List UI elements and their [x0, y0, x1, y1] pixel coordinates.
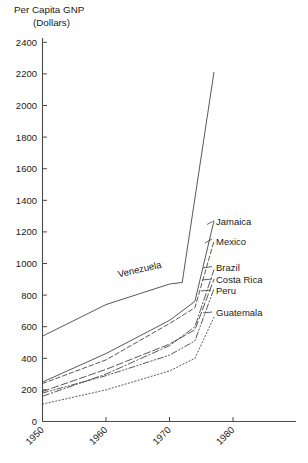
series-label-peru: Peru	[216, 285, 236, 296]
series-label-mexico: Mexico	[216, 236, 246, 247]
x-axis-tick-label: 1980	[214, 424, 237, 447]
y-axis-tick-label: 600	[21, 321, 37, 332]
y-axis-tick-label: 400	[21, 353, 37, 364]
chart-container: Per Capita GNP (Dollars) 020040060080010…	[0, 0, 308, 463]
series-line-venezuela	[43, 72, 214, 336]
y-axis-tick-label: 1800	[16, 132, 37, 143]
line-chart: Per Capita GNP (Dollars) 020040060080010…	[0, 0, 308, 463]
y-axis-tick-label: 800	[21, 290, 37, 301]
series-leader-line-brazil	[203, 267, 212, 269]
series-label-costa-rica: Costa Rica	[216, 274, 263, 285]
y-axis-tick-label: 1200	[16, 226, 37, 237]
y-axis-tick-label: 1400	[16, 195, 37, 206]
x-axis-tick-label: 1960	[87, 424, 110, 447]
y-axis-tick-label: 1600	[16, 163, 37, 174]
y-axis-tick-label: 2000	[16, 100, 37, 111]
x-axis-tick-label: 1950	[23, 424, 46, 447]
series-labels: JamaicaMexicoBrazilCosta RicaPeruGuatema…	[201, 216, 263, 318]
x-axis-tick-label: 1970	[150, 424, 173, 447]
y-axis-tick-label: 2400	[16, 37, 37, 48]
series-label-guatemala: Guatemala	[216, 307, 263, 318]
chart-annotations: Venezuela	[117, 259, 163, 280]
series-line-costa-rica	[43, 279, 214, 391]
series-label-jamaica: Jamaica	[216, 216, 252, 227]
series-line-brazil	[43, 270, 214, 396]
series-label-brazil: Brazil	[216, 262, 240, 273]
chart-title: Per Capita GNP	[14, 4, 85, 15]
chart-subtitle: (Dollars)	[33, 17, 70, 28]
series-lines	[43, 72, 214, 404]
y-axis-tick-label: 1000	[16, 258, 37, 269]
y-axis-tick-label: 2200	[16, 68, 37, 79]
annotation-venezuela: Venezuela	[117, 259, 163, 280]
series-line-mexico	[43, 241, 214, 383]
series-leader-line-jamaica	[207, 222, 213, 225]
series-line-peru	[43, 289, 214, 393]
y-axis-tick-label: 200	[21, 384, 37, 395]
series-leader-line-guatemala	[203, 312, 212, 313]
